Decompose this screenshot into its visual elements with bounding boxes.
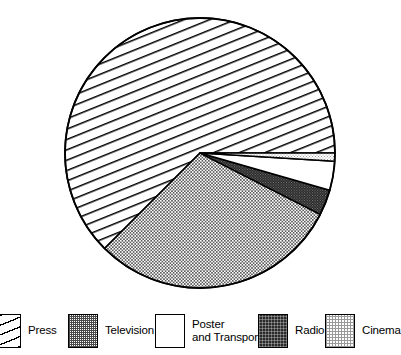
legend-swatch-poster-and-transport — [155, 314, 185, 348]
legend-label-cinema: Cinema — [362, 324, 401, 337]
legend-swatch-radio — [258, 314, 288, 348]
pie-chart-svg — [0, 0, 400, 300]
legend-item-press[interactable]: Press — [0, 306, 57, 355]
legend-item-poster-and-transport[interactable]: Poster and Transport — [155, 306, 261, 355]
legend-item-television[interactable]: Television — [68, 306, 154, 355]
legend-label-television: Television — [105, 324, 154, 337]
legend-swatch-press — [0, 314, 21, 348]
legend-item-radio[interactable]: Radio — [258, 306, 324, 355]
legend-label-press: Press — [28, 324, 57, 337]
chart-legend: Press Television Poster and Transport Ra… — [0, 306, 400, 355]
legend-swatch-cinema — [325, 314, 355, 348]
legend-label-radio: Radio — [295, 324, 324, 337]
pie-chart-container — [0, 0, 400, 300]
legend-item-cinema[interactable]: Cinema — [325, 306, 401, 355]
legend-swatch-television — [68, 314, 98, 348]
legend-label-poster-and-transport: Poster and Transport — [192, 318, 261, 343]
